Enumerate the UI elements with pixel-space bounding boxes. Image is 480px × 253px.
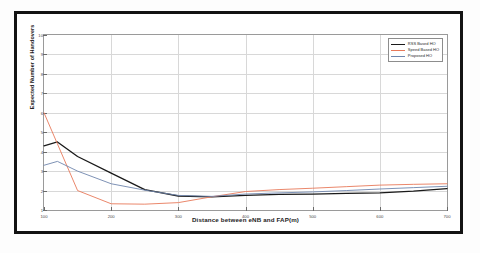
y-axis-tick-label: 1 [37,208,43,213]
series-line [44,113,447,204]
y-axis-tick-label: 2 [37,188,43,193]
x-axis-label: Distance between eNB and FAP(m) [43,216,448,223]
y-axis-label: Expected Number of Handovers [29,0,35,142]
y-axis-tick-label: 5 [37,130,43,135]
x-axis-tick [447,207,448,211]
legend-swatch-icon [391,56,405,57]
y-axis-tick-label: 3 [37,169,43,174]
y-axis-tick-label: 10 [37,33,43,38]
y-axis-tick-label: 6 [37,110,43,115]
plot-area: 12345678910100200300400500600700RSS Base… [43,34,448,211]
y-axis-tick-label: 7 [37,91,43,96]
legend-item[interactable]: Proposed HO [391,53,439,59]
series-layer [44,35,447,210]
y-axis-tick-label: 8 [37,71,43,76]
legend-swatch-icon [391,44,405,45]
figure-canvas: Expected Number of Handovers 12345678910… [17,14,460,231]
y-axis-tick-label: 9 [37,52,43,57]
chart-legend: RSS Based HOSpeed Based HOProposed HO [388,38,443,62]
legend-swatch-icon [391,50,405,51]
screenshot-root: Expected Number of Handovers 12345678910… [0,0,480,253]
figure-frame: Expected Number of Handovers 12345678910… [14,11,463,234]
y-axis-tick-label: 4 [37,149,43,154]
legend-item-label: Proposed HO [408,53,432,59]
